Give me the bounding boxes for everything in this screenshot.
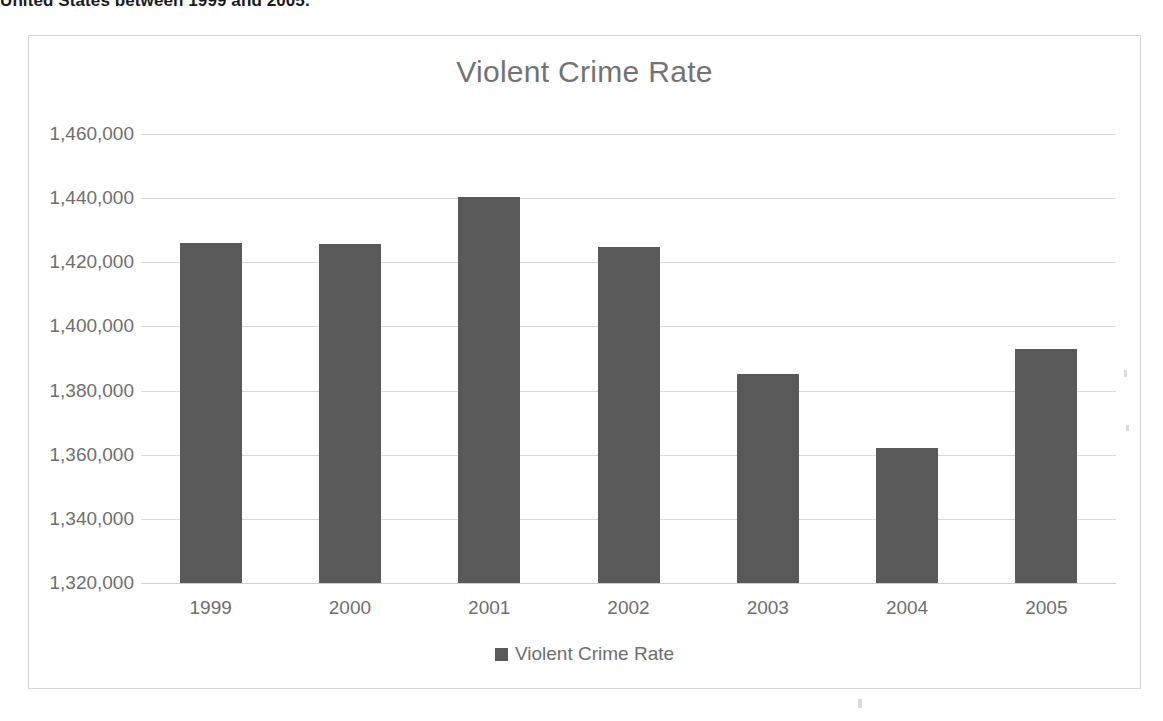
x-axis-tick-label-1999: 1999 bbox=[141, 597, 281, 619]
bar-2002[interactable] bbox=[598, 247, 660, 583]
gridline bbox=[141, 583, 1116, 584]
plot-area bbox=[141, 134, 1116, 583]
y-axis-tick-label: 1,420,000 bbox=[29, 251, 134, 273]
y-axis-tick-label: 1,460,000 bbox=[29, 123, 134, 145]
legend-label-violent-crime-rate: Violent Crime Rate bbox=[515, 643, 674, 665]
chart-container: Violent Crime Rate 1,460,0001,440,0001,4… bbox=[28, 35, 1141, 689]
bar-1999[interactable] bbox=[180, 243, 242, 583]
chart-title: Violent Crime Rate bbox=[29, 55, 1140, 89]
scan-artifact bbox=[1126, 425, 1129, 431]
y-axis-tick-label: 1,360,000 bbox=[29, 444, 134, 466]
bar-2003[interactable] bbox=[737, 374, 799, 583]
x-axis-tick-label-2002: 2002 bbox=[559, 597, 699, 619]
scan-artifact bbox=[1124, 370, 1127, 377]
y-axis-tick-label: 1,320,000 bbox=[29, 572, 134, 594]
bar-2004[interactable] bbox=[876, 448, 938, 583]
y-axis-tick-label: 1,340,000 bbox=[29, 508, 134, 530]
scan-artifact bbox=[858, 699, 862, 708]
y-axis-tick-label: 1,380,000 bbox=[29, 380, 134, 402]
gridline bbox=[141, 134, 1116, 135]
bar-2005[interactable] bbox=[1015, 349, 1077, 583]
document-text-above-chart: United States between 1999 and 2005. bbox=[0, 0, 700, 13]
x-axis-tick-label-2003: 2003 bbox=[698, 597, 838, 619]
x-axis-tick-label-2005: 2005 bbox=[976, 597, 1116, 619]
x-axis-tick-label-2004: 2004 bbox=[837, 597, 977, 619]
document-text-below-chart bbox=[300, 707, 1160, 721]
legend-swatch-violent-crime-rate bbox=[495, 648, 508, 661]
chart-legend: Violent Crime Rate bbox=[29, 643, 1140, 665]
y-axis-tick-label: 1,440,000 bbox=[29, 187, 134, 209]
bar-2001[interactable] bbox=[458, 197, 520, 583]
x-axis-tick-label-2000: 2000 bbox=[280, 597, 420, 619]
y-axis-tick-label: 1,400,000 bbox=[29, 315, 134, 337]
bar-2000[interactable] bbox=[319, 244, 381, 583]
gridline bbox=[141, 198, 1116, 199]
x-axis-tick-label-2001: 2001 bbox=[419, 597, 559, 619]
